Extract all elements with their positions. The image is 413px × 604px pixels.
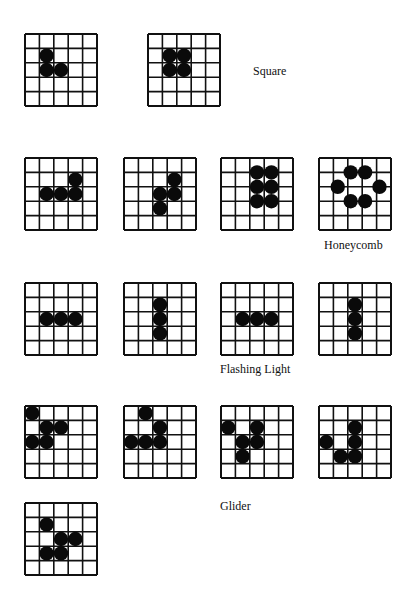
cell-dot bbox=[372, 180, 386, 194]
cell-dot bbox=[138, 406, 152, 420]
grid-honeycomb-3 bbox=[123, 157, 197, 231]
grid-glider-13 bbox=[318, 405, 392, 479]
cell-dot bbox=[54, 187, 68, 201]
cell-dot bbox=[235, 312, 249, 326]
cell-dot bbox=[153, 187, 167, 201]
cell-dot bbox=[39, 435, 53, 449]
cell-dot bbox=[39, 546, 53, 560]
cell-dot bbox=[264, 194, 278, 208]
cell-dot bbox=[343, 194, 357, 208]
cell-dot bbox=[167, 187, 181, 201]
cell-dot bbox=[39, 312, 53, 326]
cell-dot bbox=[39, 420, 53, 434]
cell-dot bbox=[153, 326, 167, 340]
cell-dot bbox=[138, 435, 152, 449]
grid-glider-12 bbox=[220, 405, 294, 479]
grid-flashing-9 bbox=[318, 282, 392, 356]
cell-dot bbox=[250, 435, 264, 449]
label-flashing-light: Flashing Light bbox=[220, 362, 290, 377]
grid-glider-10 bbox=[24, 405, 98, 479]
cell-dot bbox=[177, 48, 191, 62]
cell-dot bbox=[153, 420, 167, 434]
cell-dot bbox=[250, 312, 264, 326]
cell-dot bbox=[39, 48, 53, 62]
cell-dot bbox=[25, 406, 39, 420]
cell-dot bbox=[68, 312, 82, 326]
cell-dot bbox=[54, 63, 68, 77]
cell-dot bbox=[162, 48, 176, 62]
cell-dot bbox=[235, 435, 249, 449]
grid-flashing-6 bbox=[24, 282, 98, 356]
cell-dot bbox=[162, 63, 176, 77]
cell-dot bbox=[358, 165, 372, 179]
cell-dot bbox=[250, 165, 264, 179]
grid-flashing-7 bbox=[123, 282, 197, 356]
cell-dot bbox=[343, 165, 357, 179]
cell-dot bbox=[333, 449, 347, 463]
diagram: Square Honeycomb Flashing Light Glider bbox=[0, 0, 413, 604]
cell-dot bbox=[250, 180, 264, 194]
cell-dot bbox=[167, 172, 181, 186]
cell-dot bbox=[68, 172, 82, 186]
label-glider: Glider bbox=[220, 499, 251, 514]
cell-dot bbox=[25, 435, 39, 449]
cell-dot bbox=[331, 180, 345, 194]
grid-square-0 bbox=[24, 33, 98, 107]
cell-dot bbox=[68, 187, 82, 201]
cell-dot bbox=[319, 435, 333, 449]
grid-square-1 bbox=[147, 33, 221, 107]
grid-flashing-8 bbox=[220, 282, 294, 356]
cell-dot bbox=[235, 449, 249, 463]
grid-glider-14 bbox=[24, 502, 98, 576]
cell-dot bbox=[124, 435, 138, 449]
cell-dot bbox=[39, 517, 53, 531]
cell-dot bbox=[348, 326, 362, 340]
cell-dot bbox=[264, 180, 278, 194]
label-honeycomb: Honeycomb bbox=[324, 238, 383, 253]
grid-honeycomb-5 bbox=[318, 157, 392, 231]
cell-dot bbox=[348, 297, 362, 311]
cell-dot bbox=[39, 63, 53, 77]
label-square: Square bbox=[253, 64, 286, 79]
grid-glider-11 bbox=[123, 405, 197, 479]
grid-honeycomb-4 bbox=[220, 157, 294, 231]
grid-honeycomb-2 bbox=[24, 157, 98, 231]
cell-dot bbox=[221, 420, 235, 434]
cell-dot bbox=[177, 63, 191, 77]
cell-dot bbox=[348, 420, 362, 434]
cell-dot bbox=[348, 449, 362, 463]
cell-dot bbox=[153, 201, 167, 215]
cell-dot bbox=[54, 420, 68, 434]
cell-dot bbox=[348, 312, 362, 326]
cell-dot bbox=[68, 532, 82, 546]
cell-dot bbox=[153, 435, 167, 449]
cell-dot bbox=[250, 194, 264, 208]
cell-dot bbox=[153, 297, 167, 311]
cell-dot bbox=[264, 165, 278, 179]
cell-dot bbox=[54, 312, 68, 326]
cell-dot bbox=[39, 187, 53, 201]
cell-dot bbox=[348, 435, 362, 449]
cell-dot bbox=[54, 546, 68, 560]
cell-dot bbox=[54, 532, 68, 546]
cell-dot bbox=[264, 312, 278, 326]
cell-dot bbox=[153, 312, 167, 326]
cell-dot bbox=[250, 420, 264, 434]
cell-dot bbox=[358, 194, 372, 208]
